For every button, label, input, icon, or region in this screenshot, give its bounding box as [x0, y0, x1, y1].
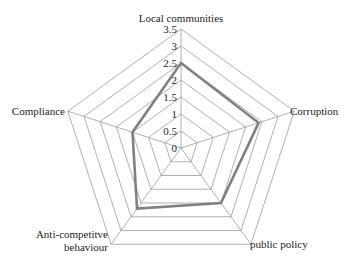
tick-label: 1.5: [163, 91, 177, 103]
category-label: Compliance: [12, 105, 65, 117]
tick-label: 0: [172, 142, 178, 154]
axis-spoke: [181, 111, 294, 148]
axis-spoke: [111, 148, 181, 244]
tick-label: 3.5: [163, 23, 177, 35]
tick-label: 2.5: [163, 57, 177, 69]
tick-label: 0.5: [163, 125, 177, 137]
category-label: Local communities: [139, 12, 224, 24]
category-label: public policy: [250, 238, 308, 250]
tick-label: 1: [172, 108, 178, 120]
category-label: Corruption: [290, 105, 339, 117]
tick-label: 3: [172, 40, 178, 52]
radar-grid: [68, 29, 294, 244]
radar-chart: 00.511.522.533.5 Local communitiesCorrup…: [0, 0, 356, 263]
category-label: Anti-competitvebehaviour: [36, 228, 108, 253]
radial-tick-labels: 00.511.522.533.5: [163, 23, 177, 154]
